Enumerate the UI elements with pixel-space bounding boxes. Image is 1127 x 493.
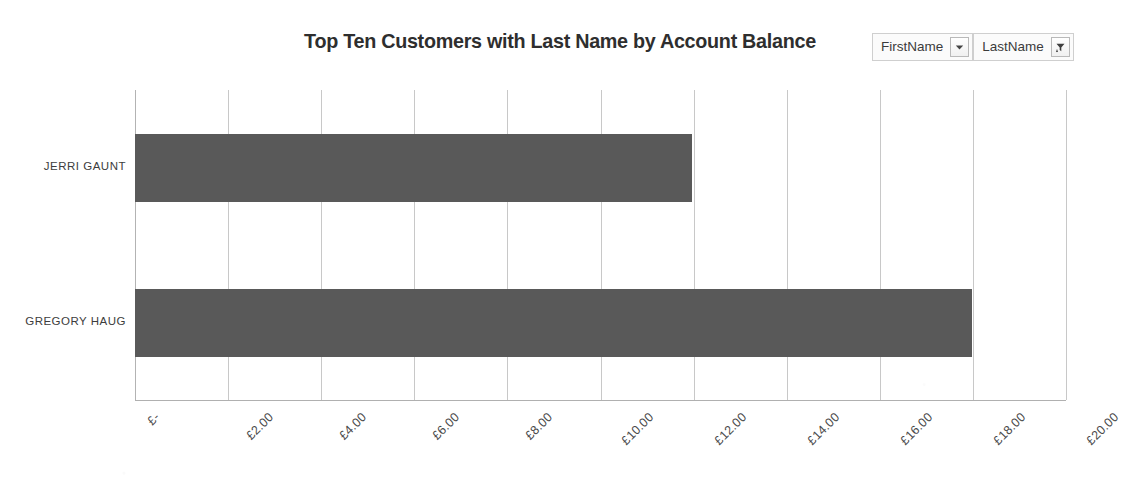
x-axis-tick-label: £20.00 — [1084, 410, 1122, 448]
x-axis-tick-label: £2.00 — [244, 410, 277, 443]
x-axis-tick-label: £10.00 — [618, 410, 656, 448]
chart-container: Top Ten Customers with Last Name by Acco… — [0, 0, 1127, 493]
slicer-firstname[interactable]: FirstName — [872, 33, 973, 61]
slicer-firstname-label: FirstName — [873, 34, 950, 60]
x-axis-tick-label: £4.00 — [337, 410, 370, 443]
x-axis-tick-label: £16.00 — [897, 410, 935, 448]
x-axis-tick-label: £- — [144, 410, 162, 428]
x-axis-tick-label: £6.00 — [430, 410, 463, 443]
x-axis-tick-label: £12.00 — [711, 410, 749, 448]
y-axis-label: GREGORY HAUG — [0, 315, 126, 327]
funnel-filter-icon[interactable] — [1051, 37, 1070, 57]
slicer-lastname[interactable]: LastName — [973, 33, 1074, 61]
y-axis-label: JERRI GAUNT — [0, 160, 126, 172]
slicer-toolbar: FirstName LastName — [872, 33, 1074, 61]
chart-title: Top Ten Customers with Last Name by Acco… — [269, 29, 852, 53]
x-axis-tick-label: £18.00 — [990, 410, 1028, 448]
x-axis-tick-label: £8.00 — [523, 410, 556, 443]
chevron-down-icon[interactable] — [950, 37, 969, 57]
x-axis-tick-label: £14.00 — [804, 410, 842, 448]
y-axis-category-labels: JERRI GAUNTGREGORY HAUG — [0, 90, 1127, 400]
x-axis-line — [135, 400, 1066, 401]
slicer-lastname-label: LastName — [974, 34, 1051, 60]
